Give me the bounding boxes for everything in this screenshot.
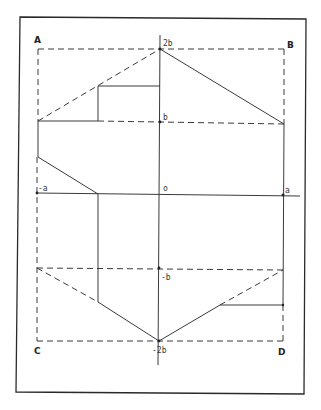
edge-bottom-left-diag: [98, 302, 159, 341]
label-2b: 2b: [163, 39, 173, 48]
horizontal-axis: [36, 193, 300, 196]
label-neg-a: -a: [38, 184, 48, 193]
label-b: b: [163, 113, 168, 122]
dashed-diagonal-bottom-right: [220, 270, 283, 305]
corner-label-c: C: [34, 346, 41, 356]
corner-label-d: D: [278, 347, 285, 357]
label-a: a: [285, 186, 290, 195]
dashed-diagonal-bottom-left: [37, 268, 98, 302]
outer-frame: [16, 17, 306, 394]
dashed-diagonal-top-left: [38, 49, 160, 121]
axes: [36, 35, 300, 365]
edge-right: [283, 124, 284, 305]
label-neg-2b: -2b: [152, 346, 167, 355]
dashed-guides: [37, 49, 284, 305]
edge-bottom-right-diag: [159, 305, 220, 341]
label-origin: o: [163, 184, 168, 193]
diagram-canvas: A B C D 2b b o -a a -b -2b: [0, 0, 321, 410]
corner-label-a: A: [34, 35, 41, 45]
label-neg-b: -b: [161, 273, 171, 282]
corner-label-b: B: [287, 40, 294, 50]
dashed-line-b: [98, 121, 284, 124]
vertical-axis: [158, 35, 160, 365]
edge-top-right: [160, 49, 284, 124]
